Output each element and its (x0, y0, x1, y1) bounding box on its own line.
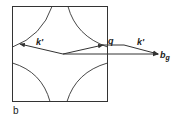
q-label: q (108, 36, 114, 46)
fermi-arc-top-right (68, 7, 108, 48)
fermi-arc-bottom-left (13, 63, 51, 102)
k-prime-left-label: k' (36, 37, 44, 47)
fermi-arc-bottom-right (67, 63, 108, 102)
brillouin-zone-diagram: k' q k' bg b (0, 0, 175, 118)
b-g-label: bg (160, 50, 171, 62)
k-vector (63, 45, 103, 54)
panel-label: b (13, 105, 19, 116)
fermi-arc-top-left (13, 7, 53, 48)
k-prime-right-label: k' (137, 37, 145, 47)
